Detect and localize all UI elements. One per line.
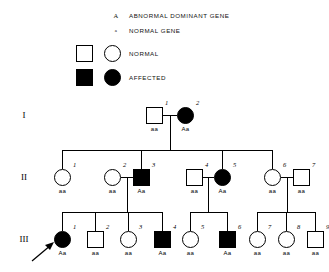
sibship-drop-II-3: [141, 150, 142, 169]
individual-id-label: 3: [152, 161, 155, 168]
individual-id-label: 7: [268, 223, 271, 230]
genotype-label: Aa: [151, 250, 174, 256]
square-open-icon: [87, 231, 104, 248]
legend-square-filled-icon: [76, 69, 93, 86]
individual-id-label: 7: [312, 161, 315, 168]
genotype-label: aa: [183, 188, 206, 194]
genotype-label: aa: [290, 188, 313, 194]
sibship-line-III-a: [62, 212, 162, 213]
genotype-label: aa: [51, 188, 74, 194]
individual-id-label: 6: [283, 161, 286, 168]
descent-line-I: [170, 115, 171, 150]
genotype-label: Aa: [216, 250, 239, 256]
sibship-drop-III-4: [162, 212, 163, 231]
sibship-drop-III-7: [257, 212, 258, 231]
sibship-line-II: [62, 150, 273, 151]
circle-open-icon: [249, 231, 266, 248]
individual-id-label: 1: [165, 99, 168, 106]
circle-filled-icon: [214, 169, 231, 186]
square-filled-icon: [154, 231, 171, 248]
descent-line-II-4-5: [208, 177, 209, 212]
legend-gene-key-a: a: [103, 28, 129, 33]
individual-id-label: 5: [233, 161, 236, 168]
pedigree-chart: A ABNORMAL DOMINANT GENE a NORMAL GENE N…: [0, 0, 329, 272]
sibship-drop-III-8: [286, 212, 287, 231]
sibship-line-III-b: [190, 212, 227, 213]
descent-line-II-6-7: [287, 177, 288, 212]
circle-open-icon: [278, 231, 295, 248]
proband-arrow-icon: [30, 240, 60, 264]
genotype-label: aa: [84, 250, 107, 256]
square-open-icon: [307, 231, 324, 248]
genotype-label: aa: [143, 126, 166, 132]
legend-symbols-affected: [76, 69, 121, 86]
individual-id-label: 2: [196, 99, 199, 106]
legend-label-normal: NORMAL: [129, 50, 159, 57]
genotype-label: aa: [275, 250, 298, 256]
genotype-label: Aa: [130, 188, 153, 194]
square-open-icon: [146, 107, 163, 124]
legend-label-normal-row: NORMAL: [129, 50, 159, 57]
sibship-drop-II-5: [222, 150, 223, 169]
generation-label-II: II: [14, 172, 34, 182]
legend-gene-label-dominant: ABNORMAL DOMINANT GENE: [129, 12, 229, 19]
individual-id-label: 3: [139, 223, 142, 230]
genotype-label: aa: [246, 250, 269, 256]
individual-id-label: 1: [73, 223, 76, 230]
individual-id-label: 6: [238, 223, 241, 230]
sibship-drop-III-9: [315, 212, 316, 231]
sibship-drop-III-3: [128, 212, 129, 231]
circle-filled-icon: [177, 107, 194, 124]
individual-id-label: 2: [123, 161, 126, 168]
circle-open-icon: [54, 169, 71, 186]
sibship-drop-II-1: [62, 150, 63, 169]
circle-open-icon: [264, 169, 281, 186]
generation-label-I: I: [14, 110, 34, 120]
sibship-drop-III-1: [62, 212, 63, 231]
genotype-label: aa: [101, 188, 124, 194]
legend-gene-row-normal: a NORMAL GENE: [103, 27, 181, 34]
legend-gene-key-A: A: [103, 12, 129, 19]
circle-open-icon: [182, 231, 199, 248]
legend-gene-label-normal: NORMAL GENE: [129, 27, 181, 34]
legend-symbols-normal: [76, 45, 121, 62]
descent-line-II-2-3: [127, 177, 128, 212]
sibship-drop-III-6: [227, 212, 228, 231]
individual-id-label: 8: [297, 223, 300, 230]
legend-circle-open-icon: [104, 45, 121, 62]
square-filled-icon: [133, 169, 150, 186]
legend-square-open-icon: [76, 45, 93, 62]
genotype-label: aa: [179, 250, 202, 256]
individual-id-label: 4: [173, 223, 176, 230]
legend-circle-filled-icon: [104, 69, 121, 86]
genotype-label: aa: [261, 188, 284, 194]
individual-id-label: 2: [106, 223, 109, 230]
square-open-icon: [186, 169, 203, 186]
legend-label-affected: AFFECTED: [129, 74, 166, 81]
genotype-label: aa: [304, 250, 327, 256]
individual-id-label: 4: [205, 161, 208, 168]
circle-open-icon: [104, 169, 121, 186]
genotype-label: Aa: [174, 126, 197, 132]
circle-open-icon: [120, 231, 137, 248]
genotype-label: Aa: [211, 188, 234, 194]
sibship-drop-II-6: [272, 150, 273, 169]
individual-id-label: 1: [73, 161, 76, 168]
square-open-icon: [293, 169, 310, 186]
legend-gene-row-dominant: A ABNORMAL DOMINANT GENE: [103, 12, 229, 19]
individual-id-label: 5: [201, 223, 204, 230]
sibship-drop-III-2: [95, 212, 96, 231]
square-filled-icon: [219, 231, 236, 248]
genotype-label: aa: [117, 250, 140, 256]
sibship-drop-III-5: [190, 212, 191, 231]
legend-label-affected-row: AFFECTED: [129, 74, 166, 81]
